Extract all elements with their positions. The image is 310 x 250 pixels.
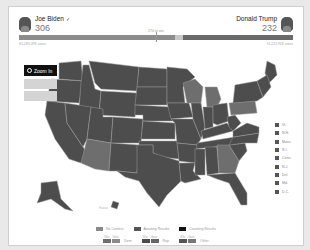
state-alaska[interactable] (37, 181, 73, 211)
legend-awaiting: Awaiting Results (134, 227, 170, 231)
magnifier-icon (27, 68, 32, 73)
state-alabama[interactable] (205, 147, 219, 175)
state-colorado[interactable] (111, 117, 143, 143)
small-state-item[interactable]: Vt. (275, 121, 291, 129)
state-south-dakota[interactable] (135, 87, 167, 105)
status-legend: No Contest Awaiting Results Counting Res… (9, 227, 303, 231)
candidate-name: Donald Trump (236, 15, 277, 23)
small-state-item[interactable]: Del. (275, 171, 291, 179)
small-state-item[interactable]: Conn. (275, 154, 291, 162)
legend-swatch (179, 227, 186, 231)
state-florida[interactable] (207, 173, 247, 205)
state-ohio[interactable] (213, 103, 229, 125)
legend-group-other: WinGain Other (179, 235, 209, 243)
legend-swatch (179, 239, 187, 243)
legend-swatch (96, 227, 103, 231)
state-swatch (275, 156, 279, 160)
legend-swatch (134, 227, 141, 231)
small-state-item[interactable]: N.H. (275, 129, 291, 137)
hawaii-label: Hawaii (99, 206, 108, 210)
state-swatch (275, 131, 279, 135)
state-washington[interactable] (59, 61, 83, 81)
legend-swatch (151, 239, 159, 243)
state-wyoming[interactable] (99, 91, 137, 117)
small-state-item[interactable]: R.I. (275, 146, 291, 154)
uncalled-bar-segment (175, 35, 183, 40)
state-arizona[interactable] (81, 139, 111, 171)
state-swatch (275, 190, 279, 194)
zoom-in-label: Zoom In (34, 68, 52, 74)
map-control-button-2[interactable] (24, 91, 57, 101)
small-state-item[interactable]: D.C. (275, 187, 291, 195)
dem-bar-segment (19, 35, 175, 40)
small-state-item[interactable]: N.J. (275, 162, 291, 170)
small-state-item[interactable]: Md. (275, 179, 291, 187)
small-states-legend: Vt. N.H. Mass. R.I. Conn. N.J. Del. Md. … (275, 121, 291, 196)
zoom-in-button[interactable]: Zoom In (24, 65, 57, 76)
winner-check-icon: ✓ (66, 16, 70, 22)
state-arkansas[interactable] (177, 143, 197, 163)
legend-swatch (142, 239, 150, 243)
rep-bar-segment (183, 35, 293, 40)
candidate-name: Joe Biden (35, 15, 64, 22)
state-montana[interactable] (89, 61, 139, 91)
state-swatch (275, 140, 279, 144)
electoral-vote-bar (19, 35, 293, 40)
state-swatch (275, 165, 279, 169)
map-control-button-1[interactable] (24, 79, 57, 89)
state-mississippi[interactable] (195, 149, 205, 175)
legend-group-dem: WinGain Dem (103, 235, 131, 243)
legend-swatch (103, 239, 111, 243)
state-indiana[interactable] (203, 107, 213, 129)
legend-swatch (188, 239, 196, 243)
legend-swatch (112, 239, 120, 243)
state-swatch (275, 181, 279, 185)
state-swatch (275, 148, 279, 152)
small-state-item[interactable]: Mass. (275, 138, 291, 146)
state-hawaii[interactable] (111, 201, 119, 209)
margin-legend: WinGain Dem WinGain Rep WinGain Other (9, 235, 303, 243)
state-swatch (275, 173, 279, 177)
state-new-mexico[interactable] (109, 143, 139, 173)
state-iowa[interactable] (167, 103, 193, 119)
state-wisconsin[interactable] (183, 79, 203, 103)
threshold-tick (156, 32, 157, 42)
state-north-dakota[interactable] (137, 67, 167, 87)
state-kansas[interactable] (141, 121, 175, 139)
us-map: Hawaii (21, 43, 283, 219)
legend-group-rep: WinGain Rep (142, 235, 169, 243)
election-results-panel: Joe Biden✓ 306 Donald Trump 232 270 to w… (8, 6, 304, 246)
legend-no-contest: No Contest (96, 227, 124, 231)
legend-counting: Counting Results (179, 227, 216, 231)
state-swatch (275, 123, 279, 127)
